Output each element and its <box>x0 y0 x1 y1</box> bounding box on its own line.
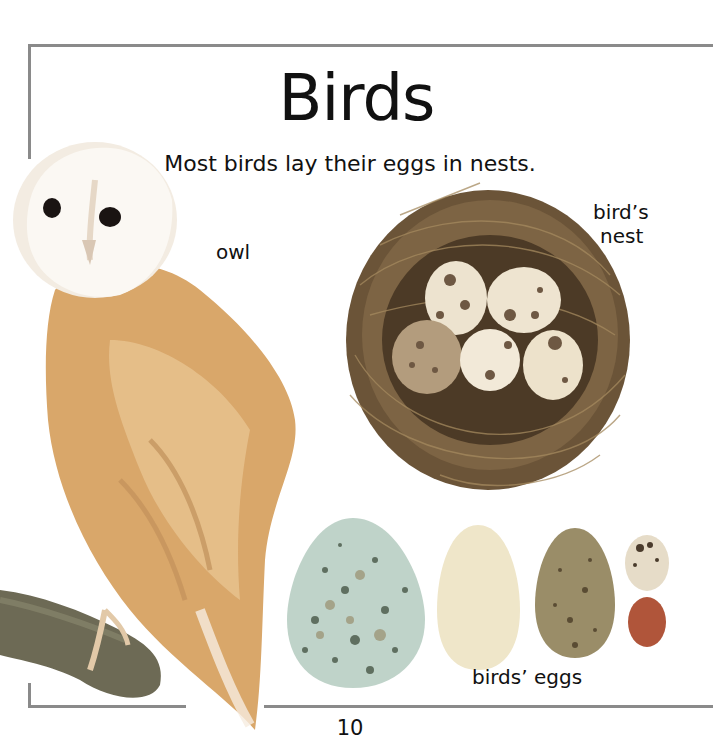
owl-label: owl <box>216 240 250 264</box>
nest-label-line2: nest <box>600 224 643 248</box>
page-number: 10 <box>330 716 370 740</box>
frame-bottom-line-right <box>264 705 713 708</box>
eggs-label: birds’ eggs <box>472 665 582 689</box>
owl-image <box>0 140 300 740</box>
frame-top-line <box>28 44 713 47</box>
nest-label-line1: bird’s <box>593 200 649 224</box>
eggs-image <box>285 510 675 690</box>
page-title: Birds <box>0 62 713 134</box>
